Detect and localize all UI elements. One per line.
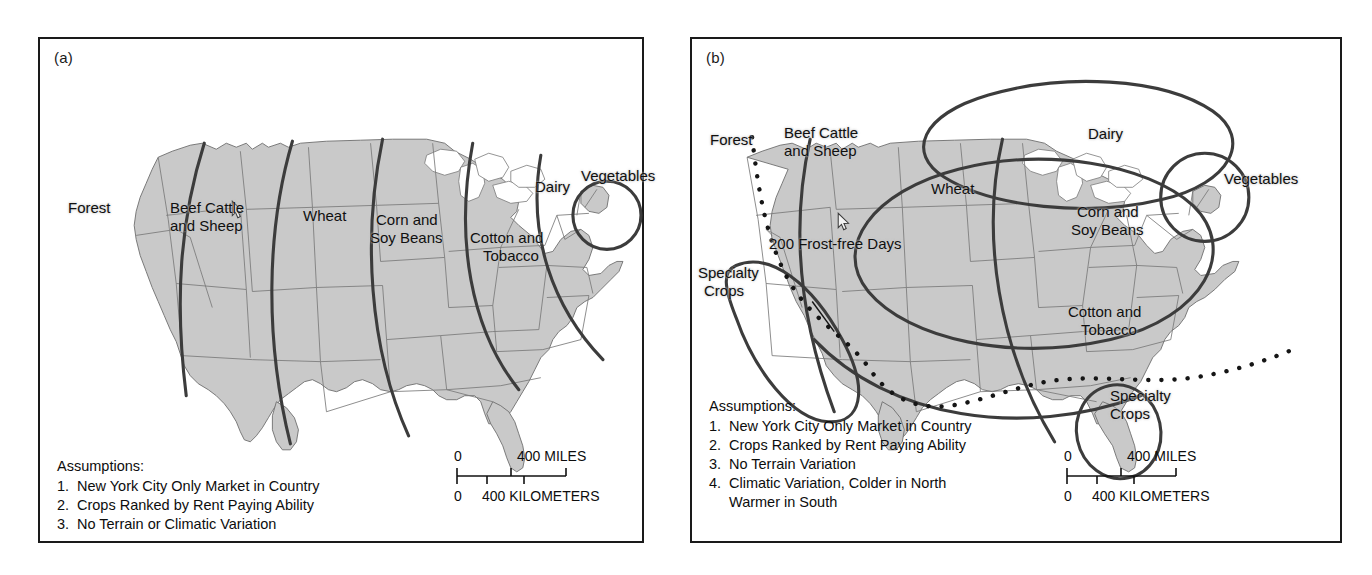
zone-label-dairy: Dairy — [535, 178, 570, 195]
assumption-b-num-2: 2. — [709, 436, 729, 455]
assumption-b-text-2: Crops Ranked by Rent Paying Ability — [729, 436, 972, 455]
assumptions-b-heading: Assumptions: — [709, 397, 972, 416]
scale-bar-b-km-row: 0 400 KILOMETERS — [1064, 488, 1264, 504]
panel-b: (b) — [690, 37, 1342, 543]
zone-label-specialty-fl-line2: Crops — [1110, 405, 1150, 422]
assumption-a-text-2: Crops Ranked by Rent Paying Ability — [77, 496, 320, 515]
assumption-a-num-3: 3. — [57, 515, 77, 534]
zone-label-forest: Forest — [710, 131, 753, 148]
scale-bar-b-miles-zero: 0 — [1064, 448, 1072, 464]
assumption-a-num-1: 1. — [57, 477, 77, 496]
scale-bar-b-miles-label: 400 MILES — [1127, 448, 1196, 464]
assumption-b-item-2: 2. Crops Ranked by Rent Paying Ability — [709, 436, 972, 455]
assumption-b-num-4-cont — [709, 493, 729, 512]
zone-label-cotton-line2: Tobacco — [1081, 321, 1137, 338]
assumption-b-item-4-cont: Warmer in South — [709, 493, 972, 512]
assumption-b-text-4: Climatic Variation, Colder in North — [729, 474, 972, 493]
zone-label-wheat: Wheat — [931, 180, 974, 197]
zone-label-specialty-ca-line2: Crops — [704, 282, 744, 299]
assumptions-a-list: 1. New York City Only Market in Country … — [57, 477, 320, 534]
scale-bar-a-km-zero: 0 — [454, 488, 462, 504]
zone-label-beef-cattle-line1: Beef Cattle — [170, 199, 244, 216]
zone-label-corn-line1: Corn and — [376, 211, 438, 228]
scale-bar-b: 0 400 MILES 0 400 KILOMETERS — [1064, 448, 1264, 504]
scale-bar-a-km-label: 400 KILOMETERS — [482, 488, 600, 504]
zone-label-cotton-line2: Tobacco — [483, 247, 539, 264]
scale-bar-a: 0 400 MILES 0 400 KILOMETERS — [454, 448, 629, 504]
assumptions-a-heading: Assumptions: — [57, 457, 320, 476]
scale-bar-a-miles-zero: 0 — [454, 448, 462, 464]
zone-label-beef-cattle-line2: and Sheep — [784, 142, 857, 159]
assumptions-b-list: 1. New York City Only Market in Country … — [709, 417, 972, 512]
scale-bar-b-km-label: 400 KILOMETERS — [1092, 488, 1210, 504]
assumption-b-text-1: New York City Only Market in Country — [729, 417, 972, 436]
scale-bar-b-miles-row: 0 400 MILES — [1064, 448, 1264, 464]
zone-label-cotton-line1: Cotton and — [470, 229, 543, 246]
assumption-a-item-3: 3. No Terrain or Climatic Variation — [57, 515, 320, 534]
assumptions-a: Assumptions: 1. New York City Only Marke… — [57, 457, 320, 534]
assumption-a-item-1: 1. New York City Only Market in Country — [57, 477, 320, 496]
assumption-b-text-3: No Terrain Variation — [729, 455, 972, 474]
zone-label-specialty-ca-line1: Specialty — [698, 264, 759, 281]
scale-bar-a-miles-row: 0 400 MILES — [454, 448, 629, 464]
zone-label-dairy: Dairy — [1088, 125, 1123, 142]
frost-free-days-label: 200 Frost-free Days — [769, 235, 902, 252]
zone-label-vegetables: Vegetables — [581, 167, 655, 184]
zone-label-corn-line2: Soy Beans — [370, 229, 443, 246]
assumption-a-item-2: 2. Crops Ranked by Rent Paying Ability — [57, 496, 320, 515]
zone-label-beef-cattle-line1: Beef Cattle — [784, 124, 858, 141]
zone-label-beef-cattle-line2: and Sheep — [170, 217, 243, 234]
zone-circle-vegetables — [573, 181, 641, 249]
scale-bar-a-km-row: 0 400 KILOMETERS — [454, 488, 629, 504]
assumption-b-item-4: 4. Climatic Variation, Colder in North — [709, 474, 972, 493]
assumption-b-num-3: 3. — [709, 455, 729, 474]
assumption-a-text-1: New York City Only Market in Country — [77, 477, 320, 496]
zone-label-vegetables: Vegetables — [1224, 170, 1298, 187]
panel-a: (a) — [38, 37, 644, 543]
zone-label-cotton-line1: Cotton and — [1068, 303, 1141, 320]
figure-von-thunen-us-maps: (a) — [0, 0, 1372, 575]
assumption-a-num-2: 2. — [57, 496, 77, 515]
zone-label-corn-line1: Corn and — [1077, 203, 1139, 220]
zone-label-forest: Forest — [68, 199, 111, 216]
assumption-b-num-1: 1. — [709, 417, 729, 436]
assumptions-b: Assumptions: 1. New York City Only Marke… — [709, 397, 972, 512]
zone-label-specialty-fl-line1: Specialty — [1110, 387, 1171, 404]
assumption-b-item-3: 3. No Terrain Variation — [709, 455, 972, 474]
zone-label-wheat: Wheat — [303, 207, 346, 224]
assumption-b-num-4: 4. — [709, 474, 729, 493]
assumption-b-text-4-cont: Warmer in South — [729, 493, 972, 512]
scale-bar-b-ruler — [1064, 465, 1184, 487]
scale-bar-a-ruler — [454, 465, 574, 487]
scale-bar-b-km-zero: 0 — [1064, 488, 1072, 504]
assumption-a-text-3: No Terrain or Climatic Variation — [77, 515, 320, 534]
scale-bar-a-miles-label: 400 MILES — [517, 448, 586, 464]
zone-label-corn-line2: Soy Beans — [1071, 221, 1144, 238]
assumption-b-item-1: 1. New York City Only Market in Country — [709, 417, 972, 436]
